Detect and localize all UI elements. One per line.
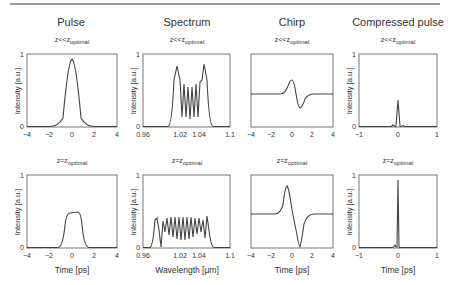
plot-box bbox=[143, 175, 230, 248]
y-axis-label: Intensity [a.u.] bbox=[13, 68, 22, 115]
svg-text:4: 4 bbox=[331, 252, 335, 259]
svg-text:−4: −4 bbox=[247, 252, 255, 259]
pulse-curve bbox=[27, 212, 117, 248]
svg-text:−1: −1 bbox=[355, 252, 363, 259]
svg-text:−1: −1 bbox=[355, 131, 363, 138]
svg-text:0: 0 bbox=[20, 244, 24, 251]
svg-text:1.1: 1.1 bbox=[225, 131, 235, 138]
compressed-curve bbox=[359, 100, 437, 127]
svg-text:0: 0 bbox=[136, 123, 140, 130]
svg-text:2: 2 bbox=[310, 252, 314, 259]
plot-box bbox=[27, 175, 117, 248]
svg-text:0: 0 bbox=[70, 131, 74, 138]
x-axis-label-compressed: Time [ps] bbox=[348, 265, 448, 275]
svg-text:−2: −2 bbox=[45, 252, 53, 259]
chirp-curve bbox=[251, 186, 333, 247]
svg-text:1: 1 bbox=[352, 172, 356, 179]
spectrum-curve bbox=[143, 64, 230, 127]
svg-text:0.96: 0.96 bbox=[136, 252, 150, 259]
x-axis-label-chirp: Time [ps] bbox=[242, 265, 342, 275]
svg-text:−2: −2 bbox=[267, 252, 275, 259]
svg-text:1: 1 bbox=[20, 51, 24, 58]
chirp-curve bbox=[251, 80, 333, 108]
y-axis-label: Intensity [a.u.] bbox=[129, 189, 138, 236]
spectrum-curve bbox=[143, 216, 230, 248]
svg-text:1: 1 bbox=[20, 172, 24, 179]
svg-text:1: 1 bbox=[352, 51, 356, 58]
plot-box bbox=[251, 54, 333, 127]
y-axis-label: Intensity [a.u.] bbox=[345, 189, 354, 236]
svg-text:2: 2 bbox=[310, 131, 314, 138]
svg-text:1.04: 1.04 bbox=[192, 131, 206, 138]
figure-panels: 10 10 10 10 10 10 −4−2024 0.961.021.041.… bbox=[0, 0, 449, 285]
svg-text:1.1: 1.1 bbox=[225, 252, 235, 259]
svg-text:−4: −4 bbox=[23, 131, 31, 138]
svg-text:1.02: 1.02 bbox=[173, 131, 187, 138]
x-axis-label-spectrum: Wavelength [μm] bbox=[137, 265, 237, 275]
pulse-curve bbox=[27, 59, 117, 127]
svg-text:0: 0 bbox=[136, 244, 140, 251]
svg-text:1: 1 bbox=[435, 131, 439, 138]
svg-text:1: 1 bbox=[435, 252, 439, 259]
svg-text:1: 1 bbox=[136, 51, 140, 58]
y-axis-label: Intensity [a.u.] bbox=[129, 68, 138, 115]
svg-text:0: 0 bbox=[290, 131, 294, 138]
svg-text:1.04: 1.04 bbox=[192, 252, 206, 259]
svg-text:−2: −2 bbox=[45, 131, 53, 138]
svg-text:4: 4 bbox=[115, 252, 119, 259]
svg-text:0: 0 bbox=[70, 252, 74, 259]
svg-text:1: 1 bbox=[136, 172, 140, 179]
svg-text:2: 2 bbox=[92, 131, 96, 138]
svg-text:−2: −2 bbox=[267, 131, 275, 138]
svg-text:0: 0 bbox=[396, 252, 400, 259]
svg-text:0: 0 bbox=[352, 123, 356, 130]
svg-text:4: 4 bbox=[331, 131, 335, 138]
svg-text:−4: −4 bbox=[23, 252, 31, 259]
plot-box bbox=[27, 54, 117, 127]
svg-text:4: 4 bbox=[115, 131, 119, 138]
compressed-curve bbox=[359, 180, 437, 248]
plot-box bbox=[359, 54, 437, 127]
svg-text:0: 0 bbox=[20, 123, 24, 130]
y-axis-label: Intensity [a.u.] bbox=[13, 189, 22, 236]
svg-text:2: 2 bbox=[92, 252, 96, 259]
x-axis-label-pulse: Time [ps] bbox=[22, 265, 122, 275]
svg-text:0: 0 bbox=[290, 252, 294, 259]
svg-text:0: 0 bbox=[352, 244, 356, 251]
y-axis-label: Intensity [a.u.] bbox=[345, 68, 354, 115]
svg-text:1.02: 1.02 bbox=[173, 252, 187, 259]
svg-text:−4: −4 bbox=[247, 131, 255, 138]
svg-text:0: 0 bbox=[396, 131, 400, 138]
svg-text:0.96: 0.96 bbox=[136, 131, 150, 138]
